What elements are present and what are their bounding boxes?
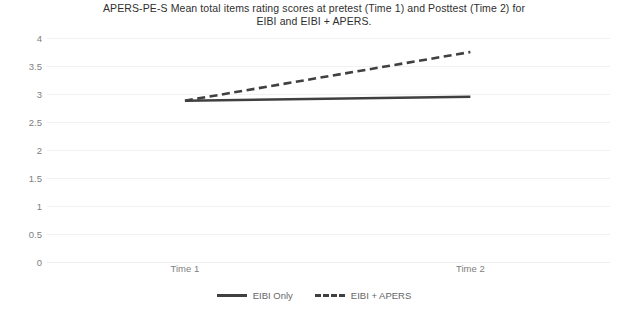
legend-item[interactable]: EIBI + APERS — [315, 290, 411, 301]
gridline — [47, 178, 610, 179]
gridline — [47, 234, 610, 235]
legend-item-label: EIBI + APERS — [351, 290, 411, 301]
chart-title-line-1: APERS-PE-S Mean total items rating score… — [60, 2, 568, 15]
legend-item[interactable]: EIBI Only — [217, 290, 293, 301]
gridline — [47, 38, 610, 39]
y-axis-tick-label: 3 — [0, 89, 42, 100]
y-axis-tick-label: 2 — [0, 145, 42, 156]
y-axis-tick-label: 2.5 — [0, 117, 42, 128]
legend-item-label: EIBI Only — [253, 290, 293, 301]
y-axis-tick-label: 1.5 — [0, 173, 42, 184]
x-axis-labels: Time 1Time 2 — [0, 263, 628, 279]
chart-title: APERS-PE-S Mean total items rating score… — [60, 2, 568, 28]
chart-container: APERS-PE-S Mean total items rating score… — [0, 0, 628, 320]
x-axis-tick-label: Time 1 — [171, 263, 200, 274]
chart-title-line-2: EIBI and EIBI + APERS. — [60, 15, 568, 28]
y-axis-labels: 00.511.522.533.54 — [0, 38, 42, 262]
legend-dashed-line-icon — [315, 294, 345, 297]
gridline — [47, 206, 610, 207]
gridline — [47, 94, 610, 95]
plot-area — [47, 38, 610, 262]
y-axis-tick-label: 0.5 — [0, 229, 42, 240]
y-axis-tick-label: 3.5 — [0, 61, 42, 72]
gridline — [47, 122, 610, 123]
y-axis-tick-label: 1 — [0, 201, 42, 212]
chart-legend: EIBI OnlyEIBI + APERS — [0, 290, 628, 301]
x-axis-tick-label: Time 2 — [456, 263, 485, 274]
gridline — [47, 66, 610, 67]
y-axis-tick-label: 4 — [0, 33, 42, 44]
legend-solid-line-icon — [217, 294, 247, 297]
gridline — [47, 150, 610, 151]
